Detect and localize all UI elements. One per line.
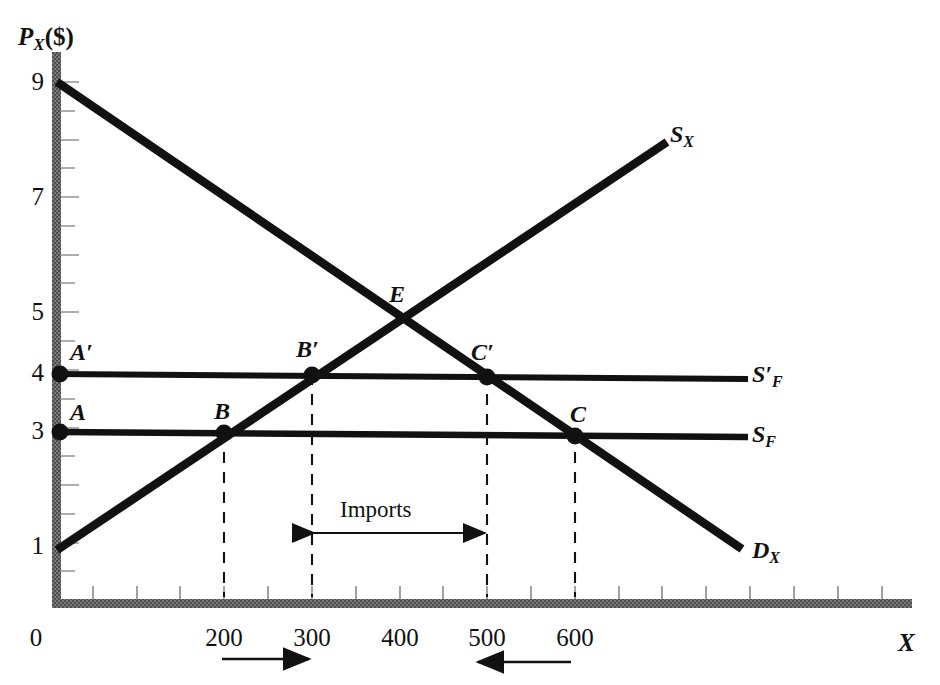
x-axis	[52, 599, 912, 608]
dot-A-prime	[52, 366, 69, 383]
chart-page: PX($) X 9 7 5 4 3 1 0 200 300 400 500 60…	[0, 0, 940, 685]
y-axis-ticks	[61, 82, 79, 571]
dot-B	[216, 425, 233, 442]
supply-demand-chart-canvas	[0, 0, 940, 685]
point-label-A-prime: A′	[70, 340, 93, 364]
x-axis-ticks	[93, 586, 882, 599]
curve-domestic-supply-SX	[57, 142, 667, 550]
curve-label-SFprime-main: S′	[752, 361, 772, 387]
dot-C	[567, 428, 584, 445]
y-axis-title-sub: X	[33, 35, 44, 54]
bottom-arrows	[222, 659, 571, 662]
x-tick-label-200: 200	[190, 625, 258, 650]
curve-label-SF-sub: F	[765, 433, 776, 450]
curve-label-DX: DX	[752, 538, 780, 566]
point-label-A: A	[70, 400, 86, 424]
x-tick-label-300: 300	[278, 625, 346, 650]
y-axis-title-main: P	[18, 23, 33, 50]
x-tick-label-400: 400	[366, 625, 434, 650]
curve-foreign-supply-SF	[57, 432, 748, 437]
y-axis-title: PX($)	[18, 24, 74, 53]
curve-label-SFprime-sub: F	[772, 373, 783, 390]
y-axis	[52, 52, 61, 608]
y-tick-label-7: 7	[12, 184, 44, 209]
dot-C-prime	[479, 369, 496, 386]
curve-label-SF-prime: S′F	[752, 362, 783, 390]
y-tick-label-5: 5	[12, 299, 44, 324]
x-tick-label-0: 0	[20, 625, 52, 650]
curve-label-SF-main: S	[752, 421, 765, 447]
curve-label-SX-sub: X	[683, 133, 694, 150]
x-tick-label-600: 600	[541, 625, 609, 650]
y-tick-label-1: 1	[12, 533, 44, 558]
x-axis-title: X	[898, 630, 915, 655]
dot-A	[52, 424, 69, 441]
point-label-B-prime: B′	[296, 337, 319, 361]
curve-label-SX-main: S	[670, 121, 683, 147]
y-tick-label-3: 3	[12, 418, 44, 443]
curve-label-DX-main: D	[752, 537, 769, 563]
point-label-C-prime: C′	[471, 340, 494, 364]
curve-label-DX-sub: X	[769, 549, 780, 566]
y-axis-title-tail: ($)	[45, 23, 74, 50]
y-tick-label-4: 4	[12, 360, 44, 385]
y-tick-label-9: 9	[12, 69, 44, 94]
point-label-B: B	[214, 399, 230, 423]
curve-label-SF: SF	[752, 422, 776, 450]
x-tick-label-500: 500	[453, 625, 521, 650]
curve-label-SX: SX	[670, 122, 694, 150]
dot-B-prime	[304, 367, 321, 384]
imports-annotation-label: Imports	[340, 498, 412, 521]
point-label-E: E	[389, 282, 405, 306]
curve-foreign-supply-tariff-SFprime	[57, 374, 748, 379]
point-label-C: C	[570, 402, 586, 426]
